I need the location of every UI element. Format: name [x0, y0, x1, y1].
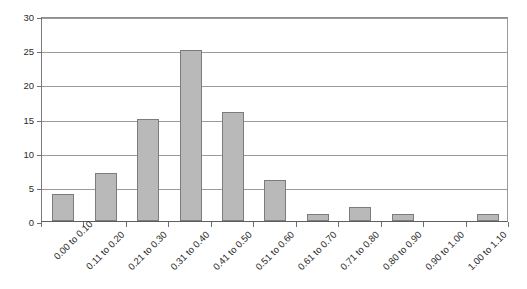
x-axis-tick-label: 0.00 to 0.10	[51, 229, 84, 262]
bar-slot	[254, 18, 296, 221]
bar-slot	[297, 18, 339, 221]
x-axis-tick	[466, 222, 467, 227]
y-axis-tick-label: 30	[23, 13, 34, 23]
bar[interactable]	[307, 214, 329, 221]
x-axis-tick	[296, 222, 297, 227]
x-axis-tick	[253, 222, 254, 227]
bar-slot	[42, 18, 84, 221]
x-axis-tick	[338, 222, 339, 227]
bar-chart: 051015202530 0.00 to 0.100.11 to 0.200.2…	[0, 0, 527, 289]
bar-slot	[127, 18, 169, 221]
y-axis-tick-label: 15	[23, 116, 34, 126]
x-axis-ticks	[41, 222, 508, 228]
x-axis-tick	[211, 222, 212, 227]
bar[interactable]	[349, 207, 371, 221]
x-axis-tick	[381, 222, 382, 227]
x-axis-labels: 0.00 to 0.100.11 to 0.200.21 to 0.300.31…	[41, 229, 508, 289]
bar[interactable]	[95, 173, 117, 221]
bar-slot	[84, 18, 126, 221]
y-axis-tick-label: 10	[23, 150, 34, 160]
bar-slot	[212, 18, 254, 221]
x-axis-tick	[41, 222, 42, 227]
bar[interactable]	[392, 214, 414, 221]
y-axis-tick-label: 25	[23, 47, 34, 57]
bar-slot	[169, 18, 211, 221]
bar[interactable]	[180, 50, 202, 221]
y-axis-tick-label: 0	[29, 218, 34, 228]
y-axis-tick-label: 20	[23, 81, 34, 91]
bar-slot	[382, 18, 424, 221]
bar-slot	[424, 18, 466, 221]
x-axis-tick	[168, 222, 169, 227]
bar[interactable]	[222, 112, 244, 221]
y-axis-tick-label: 5	[29, 184, 34, 194]
plot-area: 051015202530	[41, 17, 508, 222]
bar-slot	[339, 18, 381, 221]
x-axis-tick	[423, 222, 424, 227]
bar[interactable]	[264, 180, 286, 221]
x-axis-tick	[508, 222, 509, 227]
bar[interactable]	[52, 194, 74, 221]
x-axis-tick	[126, 222, 127, 227]
bar[interactable]	[477, 214, 499, 221]
x-axis-tick-label: 0.31 to 0.40	[89, 229, 212, 289]
bar-slot	[467, 18, 509, 221]
bar[interactable]	[137, 119, 159, 222]
